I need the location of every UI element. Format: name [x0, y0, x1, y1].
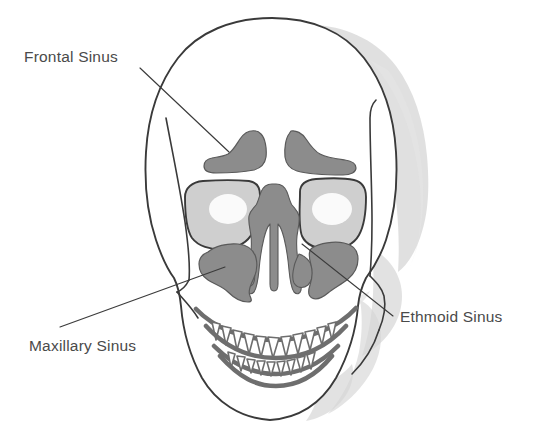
- skull-illustration: Frontal Sinus Maxillary Sinus Ethmoid Si…: [0, 0, 540, 447]
- orbit-left-highlight: [209, 194, 247, 224]
- orbit-right-highlight: [312, 193, 352, 225]
- sinus-diagram: Frontal Sinus Maxillary Sinus Ethmoid Si…: [0, 0, 540, 447]
- label-frontal-sinus: Frontal Sinus: [24, 48, 118, 65]
- label-ethmoid-sinus: Ethmoid Sinus: [400, 308, 503, 325]
- label-maxillary-sinus: Maxillary Sinus: [29, 337, 136, 354]
